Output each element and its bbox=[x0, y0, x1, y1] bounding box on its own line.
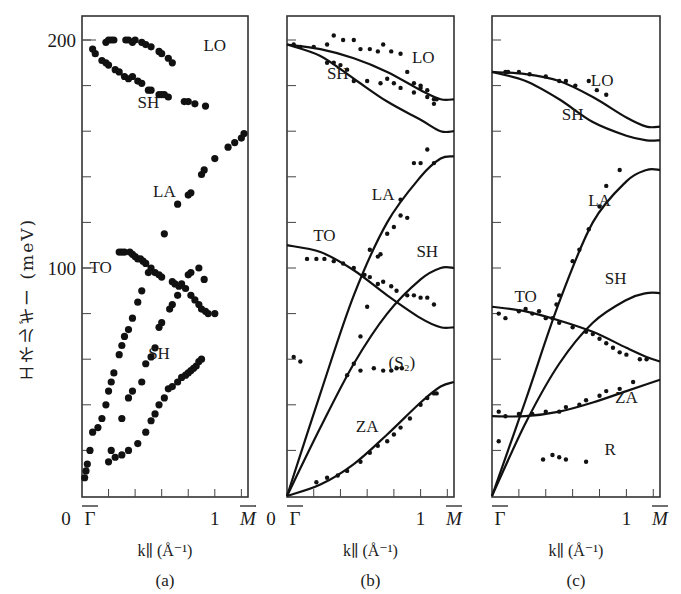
data-point bbox=[86, 447, 93, 454]
x-tick-label: Γ bbox=[85, 508, 96, 529]
data-point bbox=[134, 440, 141, 447]
panel-b: LOSHLATOSH(S₂)ZAΓ1M0k∥ (Å⁻¹)(b) bbox=[266, 16, 463, 590]
data-point bbox=[564, 79, 568, 83]
data-point bbox=[378, 81, 382, 85]
data-point bbox=[358, 334, 362, 338]
data-point bbox=[381, 42, 385, 46]
data-point bbox=[638, 357, 642, 361]
data-point bbox=[201, 276, 208, 283]
data-point bbox=[132, 36, 139, 43]
data-point bbox=[425, 396, 429, 400]
data-point bbox=[425, 95, 429, 99]
data-point bbox=[138, 80, 145, 87]
y-tick-zero: 0 bbox=[61, 508, 71, 529]
data-point bbox=[368, 450, 372, 454]
data-point bbox=[372, 366, 376, 370]
data-point bbox=[305, 257, 309, 261]
branch-label: SH bbox=[605, 269, 627, 288]
data-point bbox=[198, 356, 205, 363]
panel-caption: (b) bbox=[361, 571, 381, 590]
branch-label: LA bbox=[153, 182, 176, 201]
x-axis-label: k∥ (Å⁻¹) bbox=[343, 542, 398, 560]
data-point bbox=[537, 309, 541, 313]
data-point bbox=[376, 49, 380, 53]
branch-label: LO bbox=[203, 36, 226, 55]
data-point bbox=[158, 274, 165, 281]
y-tick-label: 100 bbox=[48, 258, 77, 279]
data-point bbox=[187, 189, 194, 196]
data-point bbox=[597, 336, 601, 340]
data-point bbox=[432, 302, 436, 306]
data-point bbox=[341, 38, 345, 42]
data-point bbox=[378, 252, 382, 256]
data-point bbox=[398, 197, 402, 201]
data-point bbox=[211, 310, 218, 317]
data-point bbox=[195, 264, 202, 271]
data-point bbox=[325, 476, 329, 480]
data-point bbox=[541, 457, 545, 461]
data-point bbox=[573, 83, 577, 87]
data-point bbox=[118, 415, 125, 422]
data-point bbox=[432, 161, 436, 165]
x-tick-label: M bbox=[651, 508, 669, 529]
data-point bbox=[352, 79, 356, 83]
branch-label: SH bbox=[416, 242, 438, 261]
data-point bbox=[564, 405, 568, 409]
data-point bbox=[385, 77, 389, 81]
data-point bbox=[376, 444, 380, 448]
data-point bbox=[412, 161, 416, 165]
x-tick-label: 1 bbox=[622, 508, 632, 529]
data-point bbox=[564, 457, 568, 461]
data-point bbox=[174, 292, 181, 299]
data-point bbox=[611, 346, 615, 350]
data-point bbox=[187, 269, 194, 276]
data-point bbox=[202, 103, 209, 110]
data-point bbox=[155, 401, 162, 408]
x-axis-label: k∥ (Å⁻¹) bbox=[138, 542, 193, 560]
phonon-dispersion-figure: LOSHLATOSHΓ1M0k∥ (Å⁻¹)(a)LOSHLATOSH(S₂)Z… bbox=[0, 0, 681, 594]
data-point bbox=[570, 259, 574, 263]
data-point bbox=[418, 403, 422, 407]
data-point bbox=[102, 401, 109, 408]
data-point bbox=[392, 432, 396, 436]
data-point bbox=[352, 362, 356, 366]
data-point bbox=[105, 388, 112, 395]
data-point bbox=[147, 417, 154, 424]
x-axis-label: k∥ (Å⁻¹) bbox=[549, 542, 604, 560]
data-point bbox=[398, 425, 402, 429]
data-point bbox=[94, 424, 101, 431]
data-point bbox=[368, 275, 372, 279]
data-point bbox=[325, 42, 329, 46]
data-point bbox=[570, 325, 574, 329]
data-point bbox=[129, 315, 136, 322]
data-point bbox=[617, 350, 621, 354]
data-point bbox=[121, 333, 128, 340]
data-point bbox=[550, 453, 554, 457]
data-point bbox=[584, 460, 588, 464]
data-point bbox=[169, 59, 176, 66]
x-tick-label: M bbox=[445, 508, 463, 529]
data-point bbox=[201, 166, 208, 173]
branch-label: LA bbox=[588, 191, 611, 210]
data-point bbox=[557, 321, 561, 325]
data-point bbox=[352, 266, 356, 270]
data-point bbox=[138, 287, 145, 294]
data-point bbox=[389, 49, 393, 53]
data-point bbox=[118, 451, 125, 458]
data-point bbox=[142, 429, 149, 436]
data-point bbox=[345, 469, 349, 473]
data-point bbox=[362, 273, 366, 277]
data-point bbox=[517, 70, 521, 74]
data-point bbox=[138, 378, 145, 385]
x-tick-label: M bbox=[239, 508, 257, 529]
y-tick-label: 200 bbox=[48, 30, 77, 51]
data-point bbox=[98, 415, 105, 422]
branch-label: ZA bbox=[615, 388, 638, 407]
data-point bbox=[425, 88, 429, 92]
data-point bbox=[523, 307, 527, 311]
data-point bbox=[434, 97, 438, 101]
data-point bbox=[530, 412, 534, 416]
calc-curve bbox=[492, 307, 660, 362]
panel-c: LOSHLATOSHZARΓ1Mk∥ (Å⁻¹)(c) bbox=[492, 16, 669, 590]
data-point bbox=[497, 311, 501, 315]
